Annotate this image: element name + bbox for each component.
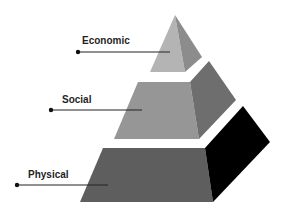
leader-dot-physical [15, 183, 19, 187]
leader-economic [76, 50, 170, 54]
label-social: Social [62, 94, 91, 106]
label-physical: Physical [28, 169, 69, 181]
tier-physical-front-face [80, 148, 213, 202]
tier-economic [150, 15, 202, 72]
tier-social [114, 61, 236, 139]
leader-dot-economic [76, 50, 80, 54]
pyramid-diagram: Economic Social Physical [0, 0, 282, 215]
pyramid-graphic [0, 0, 282, 215]
leader-dot-social [49, 108, 53, 112]
label-economic: Economic [82, 35, 130, 47]
